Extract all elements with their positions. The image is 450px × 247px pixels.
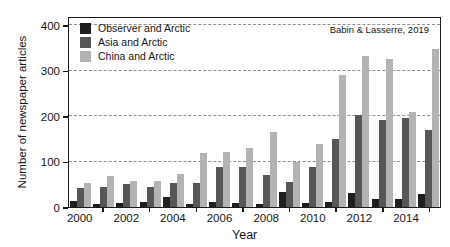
bar-group-2012 <box>347 56 370 207</box>
bar-2004-observer-and-arctic <box>163 197 170 207</box>
bar-group-2014 <box>394 112 417 208</box>
bar-2002-asia-and-arctic <box>123 184 130 207</box>
plot-area: Observer and ArcticAsia and ArcticChina … <box>68 17 441 208</box>
legend-label: Observer and Arctic <box>98 22 190 34</box>
bar-2012-asia-and-arctic <box>355 115 362 207</box>
y-tick-mark <box>63 116 68 118</box>
bar-2010-asia-and-arctic <box>309 167 316 208</box>
bar-2003-china-and-arctic <box>154 181 161 207</box>
bar-2002-china-and-arctic <box>130 181 137 207</box>
legend-label: China and Arctic <box>98 50 174 62</box>
bar-2013-china-and-arctic <box>386 59 393 207</box>
legend-item-china-and-arctic: China and Arctic <box>80 50 190 62</box>
bar-group-2002 <box>115 181 138 207</box>
bar-2011-observer-and-arctic <box>325 202 332 207</box>
legend-item-observer-and-arctic: Observer and Arctic <box>80 22 190 34</box>
bar-2010-china-and-arctic <box>316 144 323 207</box>
bar-group-2001 <box>92 176 115 207</box>
bar-2015-china-and-arctic <box>432 49 439 207</box>
bar-2005-observer-and-arctic <box>186 204 193 207</box>
x-axis-title: Year <box>232 228 257 242</box>
bar-2007-asia-and-arctic <box>239 167 246 207</box>
bar-2012-observer-and-arctic <box>348 193 355 207</box>
legend: Observer and ArcticAsia and ArcticChina … <box>80 22 190 62</box>
bar-2011-china-and-arctic <box>339 75 346 207</box>
bar-group-2015 <box>417 49 440 207</box>
bar-2007-observer-and-arctic <box>232 203 239 208</box>
y-tick-mark <box>63 71 68 73</box>
bar-group-2010 <box>301 144 324 207</box>
bar-2008-china-and-arctic <box>270 132 277 207</box>
bar-group-2007 <box>231 148 254 207</box>
x-tick-mark <box>429 208 431 212</box>
y-tick-label-0: 0 <box>26 203 60 214</box>
y-tick-mark <box>63 162 68 164</box>
bar-group-2011 <box>324 75 347 207</box>
figure: Number of newspaper articles Observer an… <box>0 0 450 247</box>
bar-2013-asia-and-arctic <box>379 120 386 207</box>
bar-2013-observer-and-arctic <box>372 199 379 207</box>
bar-group-2004 <box>162 174 185 207</box>
bar-2006-asia-and-arctic <box>216 167 223 207</box>
x-tick-label-2014: 2014 <box>384 212 428 224</box>
bar-2007-china-and-arctic <box>246 148 253 207</box>
bar-2003-observer-and-arctic <box>140 202 147 208</box>
source-annotation: Babin & Lasserre, 2019 <box>330 24 429 35</box>
x-tick-label-2010: 2010 <box>291 212 335 224</box>
bar-2010-observer-and-arctic <box>302 203 309 207</box>
bar-group-2006 <box>208 152 231 207</box>
y-tick-label-300: 300 <box>26 66 60 77</box>
bar-2003-asia-and-arctic <box>147 187 154 207</box>
bar-2001-observer-and-arctic <box>93 204 100 207</box>
bar-group-2000 <box>69 183 92 207</box>
bar-2001-asia-and-arctic <box>100 187 107 208</box>
bar-group-2009 <box>278 162 301 208</box>
legend-swatch <box>80 51 91 62</box>
x-tick-label-2002: 2002 <box>104 212 148 224</box>
bar-2000-asia-and-arctic <box>77 188 84 207</box>
bar-2004-asia-and-arctic <box>170 183 177 207</box>
bar-2014-observer-and-arctic <box>395 199 402 207</box>
bar-group-2008 <box>255 132 278 207</box>
bar-2004-china-and-arctic <box>177 174 184 207</box>
bar-2014-china-and-arctic <box>409 112 416 208</box>
bar-group-2003 <box>139 181 162 207</box>
bar-2001-china-and-arctic <box>107 176 114 207</box>
bar-2006-observer-and-arctic <box>209 202 216 208</box>
bar-2005-asia-and-arctic <box>193 183 200 207</box>
y-tick-label-200: 200 <box>26 112 60 123</box>
x-tick-label-2004: 2004 <box>151 212 195 224</box>
legend-item-asia-and-arctic: Asia and Arctic <box>80 36 190 48</box>
x-tick-label-2006: 2006 <box>198 212 242 224</box>
bar-2009-observer-and-arctic <box>279 192 286 207</box>
bar-2014-asia-and-arctic <box>402 118 409 207</box>
bar-2008-observer-and-arctic <box>256 204 263 207</box>
bar-2009-china-and-arctic <box>293 162 300 208</box>
bar-2009-asia-and-arctic <box>286 182 293 207</box>
y-tick-label-400: 400 <box>26 21 60 32</box>
y-tick-mark <box>63 25 68 27</box>
bar-group-2013 <box>370 59 393 207</box>
bar-2000-observer-and-arctic <box>70 201 77 207</box>
legend-swatch <box>80 37 91 48</box>
bar-2000-china-and-arctic <box>84 183 91 207</box>
y-tick-label-100: 100 <box>26 157 60 168</box>
bar-2011-asia-and-arctic <box>332 139 339 207</box>
x-tick-label-2008: 2008 <box>244 212 288 224</box>
x-tick-label-2000: 2000 <box>58 212 102 224</box>
legend-label: Asia and Arctic <box>98 36 167 48</box>
bar-2012-china-and-arctic <box>362 56 369 207</box>
bar-2006-china-and-arctic <box>223 152 230 207</box>
bar-2015-observer-and-arctic <box>418 194 425 207</box>
y-tick-mark <box>63 207 68 209</box>
bar-2005-china-and-arctic <box>200 153 207 207</box>
legend-swatch <box>80 23 91 34</box>
bar-group-2005 <box>185 153 208 207</box>
bar-2008-asia-and-arctic <box>263 175 270 207</box>
x-tick-label-2012: 2012 <box>337 212 381 224</box>
bar-2015-asia-and-arctic <box>425 130 432 207</box>
bar-2002-observer-and-arctic <box>116 203 123 207</box>
